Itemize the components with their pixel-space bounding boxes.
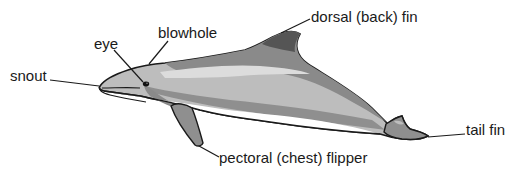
tail-fin-leader-line xyxy=(428,134,465,137)
eye-label: eye xyxy=(94,36,118,51)
blowhole-label: blowhole xyxy=(158,25,217,40)
pectoral-flipper-label: pectoral (chest) flipper xyxy=(219,150,367,165)
dorsal-fin-leader-line xyxy=(281,19,310,33)
tail-flukes xyxy=(384,116,428,139)
eye-icon xyxy=(143,82,149,87)
pectoral-flipper-leader-line xyxy=(199,146,219,157)
snout-label: snout xyxy=(10,68,47,83)
dorsal-fin-label: dorsal (back) fin xyxy=(311,9,418,24)
dolphin-diagram: snout eye blowhole dorsal (back) fin tai… xyxy=(0,0,516,175)
snout-leader-line xyxy=(50,80,99,86)
tail-fin-label: tail fin xyxy=(466,122,505,137)
blowhole-leader-line xyxy=(149,41,168,64)
